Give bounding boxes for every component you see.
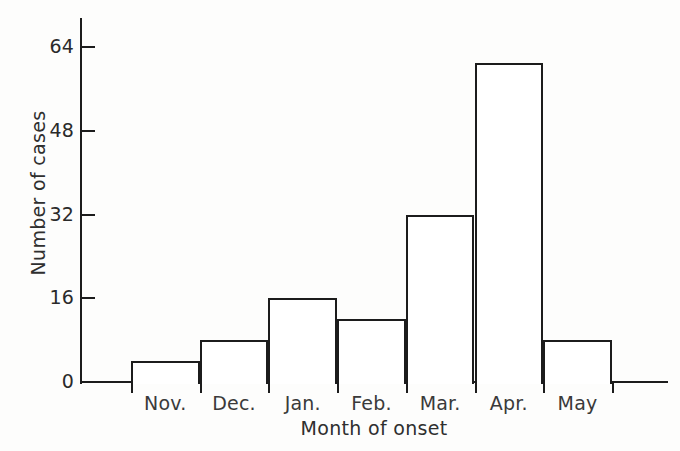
x-axis-tick-mark [612, 383, 614, 393]
x-axis-title: Month of onset [80, 417, 668, 439]
y-axis-tick-mark [82, 130, 95, 132]
x-axis-tick-label: Dec. [200, 392, 269, 415]
y-axis-tick-label: 64 [32, 37, 74, 56]
y-axis-title: Number of cases [27, 73, 49, 313]
y-axis-tick-mark [82, 46, 95, 48]
bar [543, 340, 612, 384]
y-axis-line [80, 18, 82, 384]
bar [337, 319, 406, 384]
bar [475, 63, 544, 384]
x-axis-tick-label: Mar. [406, 392, 475, 415]
bar-chart-figure: 016324864 Nov.Dec.Jan.Feb.Mar.Apr.May Nu… [0, 0, 680, 451]
x-axis-tick-label: Jan. [268, 392, 337, 415]
x-axis-tick-label: Nov. [131, 392, 200, 415]
bar [200, 340, 269, 384]
bar [406, 215, 475, 385]
bar [131, 361, 200, 384]
y-axis-tick-mark [82, 297, 95, 299]
bar [268, 298, 337, 384]
y-axis-tick-mark [82, 214, 95, 216]
x-axis-tick-label: Feb. [337, 392, 406, 415]
x-axis-tick-label: May [543, 392, 612, 415]
x-axis-tick-label: Apr. [475, 392, 544, 415]
y-axis-tick-label: 0 [32, 372, 74, 391]
